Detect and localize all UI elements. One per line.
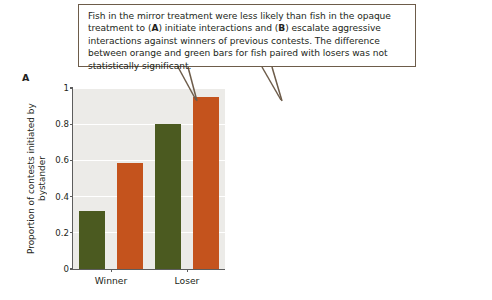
x-tick-label-loser: Loser xyxy=(175,275,200,286)
y-tick-mark xyxy=(70,87,73,88)
bar-loser-mirror xyxy=(155,124,181,269)
y-tick-label: 0.6 xyxy=(55,155,69,165)
panel-a-plot-area: 00.20.40.60.81WinnerLoser xyxy=(72,88,225,270)
y-tick-mark xyxy=(70,196,73,197)
y-tick-mark xyxy=(70,268,73,269)
y-tick-label: 1 xyxy=(64,83,69,93)
y-tick-mark xyxy=(70,232,73,233)
bar-loser-opaque xyxy=(193,97,219,269)
annotation-callout-box: Fish in the mirror treatment were less l… xyxy=(78,4,416,67)
panel-a-y-axis-label: Proportion of contests initiated by byst… xyxy=(26,96,50,262)
y-tick-mark xyxy=(70,160,73,161)
y-tick-label: 0.8 xyxy=(55,119,69,129)
y-tick-label: 0 xyxy=(64,264,69,274)
y-tick-label: 0.2 xyxy=(55,228,69,238)
figure-root: Fish in the mirror treatment were less l… xyxy=(0,0,492,300)
panel-a-letter: A xyxy=(22,72,29,83)
annotation-callout-text: Fish in the mirror treatment were less l… xyxy=(88,10,410,72)
x-tick-label-winner: Winner xyxy=(95,275,128,286)
bar-winner-mirror xyxy=(79,211,105,269)
gridline xyxy=(73,88,225,89)
y-tick-mark xyxy=(70,124,73,125)
x-tick-mark xyxy=(111,269,112,272)
x-tick-mark xyxy=(187,269,188,272)
bar-winner-opaque xyxy=(117,163,143,269)
y-tick-label: 0.4 xyxy=(55,192,69,202)
